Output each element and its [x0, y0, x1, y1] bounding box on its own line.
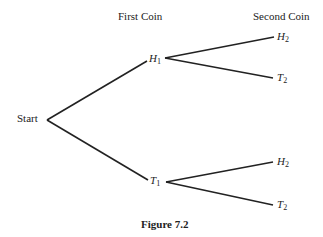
- edge-start-h1: [47, 61, 147, 120]
- figure-caption: Figure 7.2: [141, 218, 188, 230]
- header-second-coin: Second Coin: [253, 10, 310, 22]
- edge-t1-h2: [166, 162, 273, 182]
- node-t1-t2: T2: [277, 198, 287, 212]
- node-h1: H1: [149, 52, 161, 66]
- node-h1-t2: T2: [277, 71, 287, 85]
- edge-h1-h2: [165, 37, 274, 58]
- edge-start-t1: [47, 120, 148, 180]
- node-t1-h2: H2: [277, 155, 289, 169]
- tree-diagram: First Coin Second Coin Start H1 T1 H2 T2…: [0, 0, 323, 237]
- node-start: Start: [17, 112, 38, 124]
- header-first-coin: First Coin: [118, 10, 162, 22]
- edge-t1-t2: [166, 182, 273, 205]
- node-h1-h2: H2: [277, 30, 289, 44]
- edge-h1-t2: [165, 58, 273, 78]
- tree-edges: [0, 0, 323, 237]
- node-t1: T1: [150, 174, 160, 188]
